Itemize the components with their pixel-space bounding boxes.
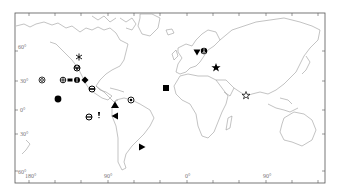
markers xyxy=(39,48,250,151)
south-america-coast xyxy=(112,98,154,170)
latitude-labels: 60° 30° 0° 30° 60° xyxy=(18,44,29,175)
filled-star-marker xyxy=(211,63,220,72)
triangle-left-marker xyxy=(112,113,119,120)
top-ticks xyxy=(29,13,318,16)
map-frame xyxy=(15,13,325,183)
asterisk-marker xyxy=(76,54,82,61)
coastlines xyxy=(16,14,320,170)
lon-label-90e: 90° xyxy=(263,173,272,179)
outline-star-marker xyxy=(242,92,250,99)
circle-peace-marker xyxy=(201,48,207,54)
australia-coast xyxy=(280,112,316,146)
circle-cross-marker xyxy=(60,77,66,83)
circle-dot-marker xyxy=(128,97,134,103)
double-circle-marker xyxy=(39,77,45,83)
tack-marker xyxy=(98,112,100,118)
greenland-coast xyxy=(138,14,160,36)
lon-label-90w: 90° xyxy=(104,173,113,179)
lon-label-0: 0° xyxy=(185,173,191,179)
lat-label-30s: 30° xyxy=(20,131,29,137)
bottom-ticks xyxy=(29,180,318,183)
filled-square-marker xyxy=(163,85,169,91)
filled-circle-marker xyxy=(55,96,62,103)
asia-coast xyxy=(220,18,320,96)
lat-label-30n: 30° xyxy=(20,78,29,84)
filled-bar-marker xyxy=(68,79,73,82)
lat-label-0: 0° xyxy=(20,107,26,113)
triangle-right-marker xyxy=(139,144,146,151)
longitude-labels: 180° 90° 0° 90° xyxy=(25,173,272,179)
africa-coast xyxy=(174,74,228,138)
circle-bar-v-marker xyxy=(74,65,80,71)
filled-circle-cross-marker xyxy=(74,77,80,83)
triangle-down-marker xyxy=(194,50,201,56)
world-map: 60° 30° 0° 30° 60° 180° 90° 0° 90° xyxy=(0,0,339,195)
triangle-up-marker xyxy=(111,102,119,109)
lat-label-60n: 60° xyxy=(18,44,27,50)
side-ticks xyxy=(15,51,325,171)
lon-label-180: 180° xyxy=(25,173,37,179)
circle-bar-marker xyxy=(89,86,95,92)
circle-theta-marker xyxy=(86,114,92,120)
